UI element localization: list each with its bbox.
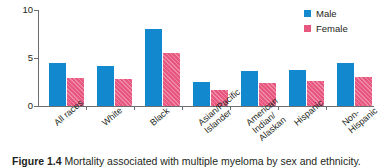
x-axis-category-label: White <box>100 105 124 128</box>
legend-label: Female <box>316 24 348 34</box>
bar-male <box>49 63 66 106</box>
x-axis-tick <box>134 106 135 110</box>
bar-group <box>145 10 180 106</box>
bar-male <box>97 66 114 106</box>
bar-male <box>289 70 306 106</box>
legend-swatch-male <box>304 10 311 17</box>
legend-label: Male <box>316 9 337 19</box>
legend-swatch-female <box>304 25 311 32</box>
y-axis-tick <box>34 10 38 11</box>
y-axis-tick <box>34 106 38 107</box>
bar-group <box>241 10 276 106</box>
chart-legend: MaleFemale <box>304 9 348 38</box>
x-axis-category-label: Black <box>148 106 171 128</box>
figure-caption-text: Mortality associated with multiple myelo… <box>62 155 361 167</box>
bar-male <box>193 82 210 106</box>
y-axis-tick-label: 0 <box>28 101 33 111</box>
figure-number: Figure 1.4 <box>12 155 62 167</box>
bar-group <box>193 10 228 106</box>
bar-male <box>337 63 354 106</box>
legend-item: Female <box>304 24 348 34</box>
x-axis-tick <box>86 106 87 110</box>
legend-item: Male <box>304 9 348 19</box>
y-axis-tick-label: 10 <box>22 5 33 15</box>
bar-female <box>163 53 180 106</box>
y-axis-tick-label: 5 <box>28 53 33 63</box>
y-axis-tick <box>34 58 38 59</box>
figure-container: Deaths per 100 000 0510 All racesWhiteBl… <box>0 0 387 168</box>
bar-female <box>115 79 132 106</box>
x-axis-tick <box>182 106 183 110</box>
figure-caption: Figure 1.4 Mortality associated with mul… <box>12 155 384 168</box>
bar-male <box>145 29 162 106</box>
bar-group <box>49 10 84 106</box>
bar-group <box>97 10 132 106</box>
x-axis-tick <box>326 106 327 110</box>
